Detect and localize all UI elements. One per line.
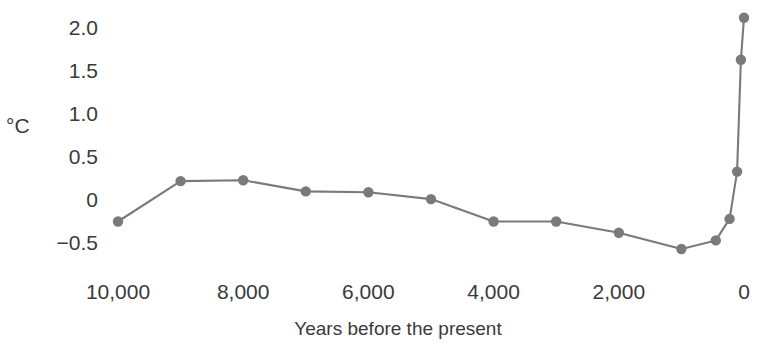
data-point: [724, 214, 734, 224]
temperature-line-chart: °C 2.01.51.00.50−0.5 10,0008,0006,0004,0…: [0, 0, 768, 347]
data-line: [118, 18, 744, 249]
data-point-markers: [113, 13, 749, 255]
data-point: [488, 216, 498, 226]
data-point: [711, 235, 721, 245]
plot-area: [0, 0, 768, 347]
data-point: [301, 186, 311, 196]
x-axis-title-wrap: Years before the present: [0, 318, 768, 340]
data-point: [739, 13, 749, 23]
x-axis-title: Years before the present: [294, 318, 501, 340]
data-point: [736, 55, 746, 65]
data-point: [551, 216, 561, 226]
data-point: [732, 166, 742, 176]
data-point: [676, 244, 686, 254]
data-point: [175, 176, 185, 186]
data-point: [238, 175, 248, 185]
data-point: [113, 216, 123, 226]
data-point: [363, 187, 373, 197]
data-point: [614, 228, 624, 238]
data-point: [426, 194, 436, 204]
